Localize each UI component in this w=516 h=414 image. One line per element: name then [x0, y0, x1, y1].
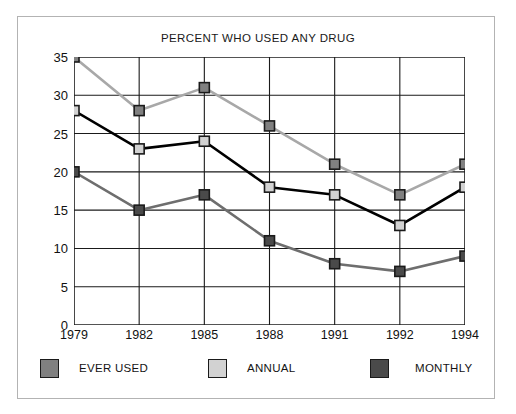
legend-swatch-icon [208, 359, 227, 378]
data-point-marker [199, 136, 209, 146]
data-point-marker [265, 121, 275, 131]
data-point-marker [265, 182, 275, 192]
data-point-marker [395, 266, 405, 276]
y-axis-tick-label: 35 [38, 51, 68, 64]
data-point-marker [74, 57, 79, 62]
data-point-marker [265, 236, 275, 246]
y-axis-tick-label: 10 [38, 242, 68, 255]
legend-item-monthly[interactable]: MONTHLY [370, 355, 472, 381]
data-point-marker [74, 106, 79, 116]
x-axis-tick-label: 1992 [386, 329, 414, 342]
legend-label: MONTHLY [415, 362, 472, 374]
data-point-marker [330, 259, 340, 269]
chart-legend: EVER USEDANNUALMONTHLY [40, 355, 480, 387]
legend-label: ANNUAL [247, 362, 295, 374]
data-point-marker [199, 190, 209, 200]
legend-swatch-icon [370, 359, 389, 378]
x-axis-tick-label: 1994 [451, 329, 479, 342]
x-axis-tick-label: 1979 [60, 329, 88, 342]
legend-item-annual[interactable]: ANNUAL [208, 355, 295, 381]
x-axis-tick-label: 1982 [125, 329, 153, 342]
x-axis-tick-label: 1991 [321, 329, 349, 342]
x-axis-tick-labels: 1979198219851988199119921994 [74, 329, 465, 347]
legend-swatch-icon [40, 359, 59, 378]
legend-label: EVER USED [79, 362, 148, 374]
y-axis-tick-labels: 05101520253035 [36, 57, 68, 325]
data-point-marker [330, 159, 340, 169]
x-axis-tick-label: 1985 [190, 329, 218, 342]
data-point-marker [460, 159, 465, 169]
data-point-marker [395, 190, 405, 200]
y-axis-tick-label: 15 [38, 204, 68, 217]
data-point-marker [460, 251, 465, 261]
y-axis-tick-label: 5 [38, 280, 68, 293]
y-axis-tick-label: 20 [38, 165, 68, 178]
y-axis-tick-label: 30 [38, 89, 68, 102]
y-axis-tick-label: 25 [38, 127, 68, 140]
data-point-marker [199, 83, 209, 93]
data-point-marker [460, 182, 465, 192]
legend-item-ever-used[interactable]: EVER USED [40, 355, 148, 381]
line-chart-svg [74, 57, 465, 325]
data-point-marker [395, 220, 405, 230]
data-point-marker [74, 167, 79, 177]
chart-title: PERCENT WHO USED ANY DRUG [0, 32, 516, 44]
data-point-marker [330, 190, 340, 200]
data-point-marker [134, 205, 144, 215]
x-axis-tick-label: 1988 [256, 329, 284, 342]
figure-canvas: PERCENT WHO USED ANY DRUG 05101520253035… [0, 0, 516, 414]
data-point-marker [134, 144, 144, 154]
data-point-marker [134, 106, 144, 116]
plot-area [74, 57, 465, 325]
